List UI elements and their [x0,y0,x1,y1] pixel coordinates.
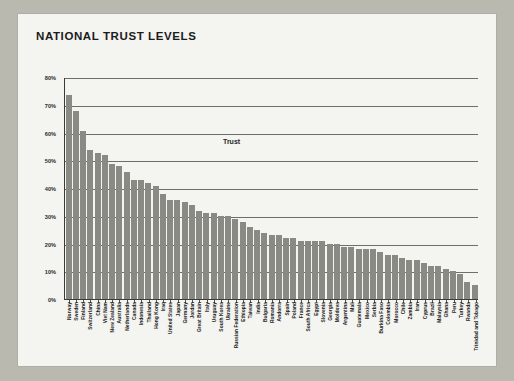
x-axis-label-text: Brazil [429,302,434,316]
plot-area [64,78,478,300]
bar [160,194,166,299]
y-axis-tick-label: 10% [45,269,56,275]
x-axis-label-text: New Zealand [110,302,115,332]
x-axis-label: South Korea [218,302,225,378]
x-axis-label-text: Georgia [328,302,333,321]
x-axis-label-text: Hong Kong [153,302,158,329]
x-axis-label: Finland [80,302,87,378]
x-axis-label: Spain [283,302,290,378]
x-axis-label-text: Ethiopia [241,302,246,322]
x-axis-label: Guatemala [356,302,363,378]
x-axis-label-text: Ukraine [226,302,231,320]
bar [421,263,427,299]
x-axis-label: Andorra [276,302,283,378]
bar-series [65,78,478,299]
x-axis-label-text: Turkey [458,302,463,318]
x-axis-label-text: Russian Federation [233,302,238,348]
bar [232,219,238,299]
x-axis-label: Romania [268,302,275,378]
x-axis-label: Argentina [341,302,348,378]
x-axis-label-text: Sweden [73,302,78,321]
x-axis-label: South Africa [305,302,312,378]
bar [472,285,478,299]
bar [211,213,217,299]
bar [203,213,209,299]
x-axis-label: India [254,302,261,378]
y-axis-tick-label: 30% [45,214,56,220]
bar [356,249,362,299]
bar [174,200,180,299]
bar [276,235,282,299]
x-axis-label: Poland [290,302,297,378]
bar [464,282,470,299]
x-axis-label: Japan [174,302,181,378]
x-axis-label-text: Italy [204,302,209,312]
bar [102,155,108,299]
bar [73,111,79,299]
x-axis-label: Serbia [370,302,377,378]
bar [457,274,463,299]
bar [80,131,86,300]
x-axis-label-text: Trinidad and Tobago [473,302,478,351]
x-axis-label: Georgia [327,302,334,378]
x-axis-label: Burkina Faso [377,302,384,378]
bar [218,216,224,299]
x-axis-label-text: Zambia [408,302,413,319]
x-axis-label-text: Poland [291,302,296,319]
x-axis-label: Jordan [189,302,196,378]
x-axis-label-text: Great Britain [197,302,202,332]
bar [131,180,137,299]
x-axis-label-text: Rwanda [466,302,471,321]
page-title: NATIONAL TRUST LEVELS [36,30,196,42]
x-axis-label-text: Norway [66,302,71,320]
x-axis-label: Iran [414,302,421,378]
x-axis-label: Mexico [363,302,370,378]
y-axis-tick-label: 80% [45,75,56,81]
bar [363,249,369,299]
x-axis-label-text: Taiwan [248,302,253,319]
screenshot-root: NATIONAL TRUST LEVELS 0%10%20%30%40%50%6… [0,0,514,381]
bar [319,241,325,299]
x-axis-label-text: Burkina Faso [379,302,384,334]
x-axis-label: Australia [116,302,123,378]
bar [124,172,130,299]
x-axis-label: Viet Nam [101,302,108,378]
bar [261,233,267,299]
bar [109,164,115,299]
x-axis-label-text: Argentina [342,302,347,325]
x-axis-label: Chile [399,302,406,378]
x-axis-label-text: Germany [182,302,187,324]
y-axis-tick-label: 40% [45,186,56,192]
x-axis-label: Ukraine [225,302,232,378]
x-axis-label: Morocco [392,302,399,378]
bar [414,260,420,299]
bar [283,238,289,299]
x-axis-label-text: Colombia [386,302,391,325]
x-axis-label: Turkey [457,302,464,378]
x-axis-label-text: Indonesia [139,302,144,325]
x-axis-label-text: Moldova [335,302,340,322]
x-axis-label: Netherlands [123,302,130,378]
bar [312,241,318,299]
x-axis-label-text: Mexico [364,302,369,319]
x-axis-label-text: Netherlands [124,302,129,331]
y-axis-tick-label: 70% [45,103,56,109]
x-axis-label: Hong Kong [152,302,159,378]
x-axis-label-text: Finland [81,302,86,320]
x-axis-label-text: Malaysia [437,302,442,323]
bar [392,255,398,299]
x-axis-label: Ethiopia [239,302,246,378]
bar [269,235,275,299]
bar [377,252,383,299]
x-axis-label: Zambia [406,302,413,378]
bar [196,211,202,299]
x-axis-label-text: Thailand [146,302,151,323]
x-axis-label: Switzerland [87,302,94,378]
bar [290,238,296,299]
x-axis-label-text: Iraq [161,302,166,311]
x-axis-label: Malaysia [436,302,443,378]
bar [435,266,441,299]
x-axis-label: Russian Federation [232,302,239,378]
x-axis-label: Canada [130,302,137,378]
x-axis-label-text: Iran [415,302,420,311]
